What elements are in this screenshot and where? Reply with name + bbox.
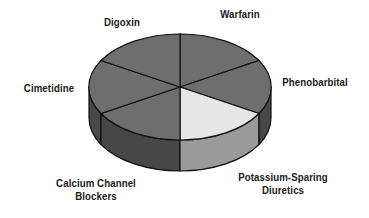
label-potassium-line1: Potassium-Sparing xyxy=(232,171,333,184)
label-warfarin: Warfarin xyxy=(212,8,267,21)
label-cimetidine: Cimetidine xyxy=(20,82,77,95)
label-potassium-sparing-diuretics: Potassium-Sparing Diuretics xyxy=(232,171,333,197)
label-potassium-line2: Diuretics xyxy=(232,184,333,197)
label-phenobarbital: Phenobarbital xyxy=(278,76,352,89)
label-calcium-line2: Blockers xyxy=(48,190,144,203)
label-digoxin: Digoxin xyxy=(94,16,149,29)
label-calcium-channel-blockers: Calcium Channel Blockers xyxy=(48,177,144,203)
label-calcium-line1: Calcium Channel xyxy=(48,177,144,190)
